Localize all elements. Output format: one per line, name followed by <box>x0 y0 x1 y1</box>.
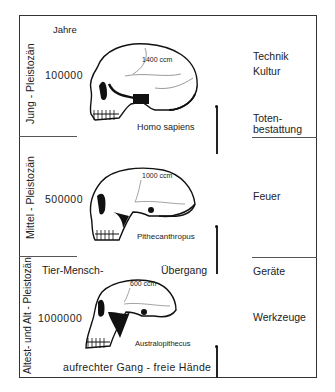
arrow-tip-icon <box>215 105 218 108</box>
arrow-segment-bottom <box>216 346 218 378</box>
arrow-tip-icon <box>215 225 218 228</box>
species-homo-sapiens: Homo sapiens <box>137 122 195 132</box>
label-geraete: Geräte <box>253 265 285 277</box>
brain-volume-homo: 1400 ccm <box>142 56 172 63</box>
label-kultur: Kultur <box>253 65 280 77</box>
years-jung: 100000 <box>45 69 83 81</box>
years-header: Jahre <box>53 24 77 35</box>
species-australopithecus: Australopithecus <box>135 339 190 348</box>
arrow-segment-middle <box>216 226 218 274</box>
right-divider-1 <box>252 137 317 138</box>
years-alt: 1000000 <box>38 312 82 324</box>
era-label-mittel: Mittel - Pleistozän <box>24 156 36 239</box>
left-divider-1 <box>19 136 77 137</box>
homo-sapiens-skull-icon <box>85 38 205 123</box>
label-technik: Technik <box>253 50 289 62</box>
arrow-tip-icon <box>215 345 218 348</box>
brain-volume-pithecanthropus: 1000 ccm <box>142 172 172 179</box>
bottom-caption: aufrechter Gang - freie Hände <box>63 361 211 373</box>
species-pithecanthropus: Pithecanthropus <box>137 232 195 241</box>
label-bestattung: bestattung <box>253 123 302 135</box>
right-divider-2 <box>252 257 317 258</box>
brain-volume-australopithecus: 600 ccm <box>130 280 156 287</box>
era-label-alt: Altest- und Alt - Pleistozän <box>22 257 33 374</box>
years-mittel: 500000 <box>45 193 83 205</box>
era-label-jung: Jung - Pleistozän <box>24 43 36 124</box>
arrow-segment-top <box>216 106 218 154</box>
label-feuer: Feuer <box>253 190 280 202</box>
label-werkzeuge: Werkzeuge <box>253 311 306 323</box>
